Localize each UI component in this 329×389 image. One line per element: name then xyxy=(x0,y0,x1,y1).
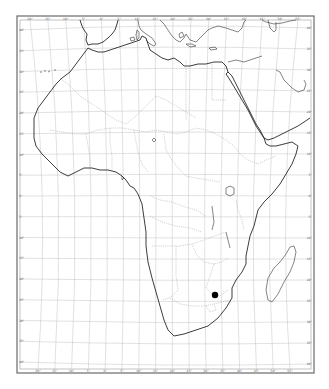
tick-label: 20° xyxy=(307,278,313,282)
tick-label: 25° xyxy=(187,369,193,373)
tick-label: 35° xyxy=(307,341,313,345)
tick-label: 35° xyxy=(19,49,25,53)
tick-label: 35° xyxy=(224,17,230,21)
tick-label: 35° xyxy=(307,47,313,51)
tick-label: 10° xyxy=(19,236,25,240)
tick-label: 20° xyxy=(307,110,313,114)
tick-label: 40° xyxy=(307,362,313,366)
tick-label: 5° xyxy=(19,215,23,219)
map-container: 20°15°10°5°0°5°10°15°20°25°30°35°40°45°5… xyxy=(0,0,329,389)
tick-label: 40° xyxy=(19,28,25,32)
tick-label: 15° xyxy=(19,256,25,260)
tick-label: 20° xyxy=(170,17,176,21)
tick-label: 35° xyxy=(19,339,25,343)
tick-label: 5° xyxy=(309,215,313,219)
tick-label: 25° xyxy=(307,89,313,93)
tick-label: 40° xyxy=(237,369,243,373)
tick-label: 30° xyxy=(19,70,25,74)
tick-label: 55° xyxy=(295,17,301,21)
africa-coastline xyxy=(34,36,298,336)
tick-label: 30° xyxy=(307,320,313,324)
tick-label: 10° xyxy=(307,236,313,240)
europe-coastline xyxy=(80,20,296,50)
tick-label: 30° xyxy=(203,369,209,373)
tick-label: 20° xyxy=(27,17,33,21)
tick-label: 15° xyxy=(45,17,51,21)
tick-label: 5° xyxy=(120,369,124,373)
map-frame-inner xyxy=(20,20,311,369)
tick-label: 10° xyxy=(307,152,313,156)
tick-label: 0° xyxy=(103,369,107,373)
tick-label: 40° xyxy=(242,17,248,21)
tick-label: 5° xyxy=(87,369,91,373)
tick-label: 5° xyxy=(82,17,86,21)
tick-label: 10° xyxy=(63,17,69,21)
tick-label: 40° xyxy=(307,26,313,30)
tick-label: 20° xyxy=(19,277,25,281)
country-borders xyxy=(50,60,276,312)
tick-label: 45° xyxy=(254,369,260,373)
tick-label: 30° xyxy=(206,17,212,21)
tick-label: 20° xyxy=(35,369,41,373)
tick-label: 25° xyxy=(188,17,194,21)
tick-label: 20° xyxy=(170,369,176,373)
tick-label: 55° xyxy=(287,369,293,373)
tick-label: 5° xyxy=(309,173,313,177)
tick-label: 15° xyxy=(307,257,313,261)
tick-label: 20° xyxy=(19,111,25,115)
tick-label: 30° xyxy=(19,319,25,323)
tick-label: 25° xyxy=(19,90,25,94)
tick-label: 25° xyxy=(307,299,313,303)
tick-label: 15° xyxy=(52,369,58,373)
tick-label: 15° xyxy=(152,17,158,21)
tick-label: 10° xyxy=(19,153,25,157)
tick-label: 30° xyxy=(307,68,313,72)
tick-label: 50° xyxy=(277,17,283,21)
madagascar-coastline xyxy=(266,246,296,302)
tick-label: 0° xyxy=(309,194,313,198)
tick-label: 15° xyxy=(19,132,25,136)
tick-label: 15° xyxy=(153,369,159,373)
tick-label: 0° xyxy=(19,194,23,198)
tick-label: 10° xyxy=(135,17,141,21)
location-marker-dot xyxy=(212,292,218,298)
tick-label: 45° xyxy=(260,17,266,21)
tick-label: 10° xyxy=(69,369,75,373)
map-frame-outer xyxy=(17,16,314,373)
tick-label: 5° xyxy=(19,173,23,177)
africa-map: 20°15°10°5°0°5°10°15°20°25°30°35°40°45°5… xyxy=(0,0,329,389)
tick-label: 25° xyxy=(19,298,25,302)
tick-label: 10° xyxy=(136,369,142,373)
tick-label: 0° xyxy=(100,17,104,21)
tick-label: 50° xyxy=(271,369,277,373)
tick-label: 35° xyxy=(220,369,226,373)
tick-label: 15° xyxy=(307,131,313,135)
tick-label: 40° xyxy=(19,360,25,364)
tick-label: 5° xyxy=(118,17,122,21)
